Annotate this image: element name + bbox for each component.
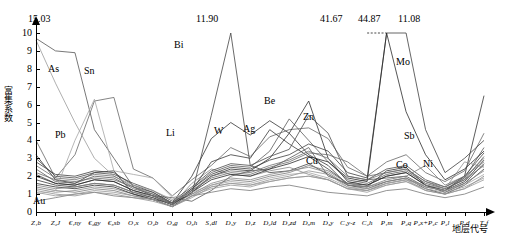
series-inline-label: Sb <box>404 131 415 141</box>
y-tick-mark <box>36 69 40 70</box>
series-line <box>36 101 484 207</box>
y-tick-mark <box>36 123 40 124</box>
x-tick-label: Z₂J <box>51 219 60 227</box>
x-tick-label: C₂h <box>362 219 373 227</box>
x-tick-mark <box>445 212 446 216</box>
y-tick-label-wrap: 3 <box>0 153 36 163</box>
series-inline-label: Sn <box>84 66 95 76</box>
x-tick-label: C₁y-z <box>340 219 355 227</box>
x-axis-line <box>36 212 488 213</box>
x-tick-label: D₂zd <box>282 219 296 227</box>
x-tick-mark <box>55 212 56 216</box>
y-tick-label: 9 <box>0 46 32 56</box>
y-tick-mark <box>36 158 40 159</box>
y-tick-label-wrap: 2 <box>0 171 36 181</box>
series-inline-label: Ag <box>243 124 255 134</box>
x-tick-label: D₃y <box>323 219 334 227</box>
x-tick-mark <box>328 212 329 216</box>
series-line <box>36 96 484 203</box>
series-inline-label: Au <box>33 196 45 206</box>
x-tick-mark <box>192 212 193 216</box>
y-tick-label-wrap: 0 <box>0 207 36 217</box>
series-inline-label: Cu <box>306 156 318 166</box>
peak-value-annotation: 11.08 <box>398 14 420 24</box>
series-line <box>36 185 484 206</box>
series-inline-label: Co <box>396 160 408 170</box>
y-tick-label: 2 <box>0 171 32 181</box>
x-axis-title: 地层代号 <box>452 222 488 235</box>
x-tick-label: O₃g <box>167 219 178 227</box>
x-tick-mark <box>484 212 485 216</box>
x-tick-mark <box>406 212 407 216</box>
x-tick-label: O₁x <box>128 219 139 227</box>
y-tick-label-wrap: 8 <box>0 64 36 74</box>
y-tick-label-wrap: 4 <box>0 135 36 145</box>
x-tick-mark <box>270 212 271 216</box>
x-tick-label: D₃m <box>302 219 315 227</box>
series-inline-label: Bi <box>174 40 183 50</box>
x-tick-mark <box>231 212 232 216</box>
series-inline-label: Ni <box>423 159 433 169</box>
series-inline-label: Be <box>264 96 275 106</box>
x-tick-label: O₂b <box>147 219 158 227</box>
x-tick-label: P₁m <box>381 219 393 227</box>
y-tick-label: 10 <box>0 28 32 38</box>
y-tick-label-wrap: 10 <box>0 28 36 38</box>
y-tick-mark <box>36 140 40 141</box>
x-tick-mark <box>289 212 290 216</box>
y-tick-label: 0 <box>0 207 32 217</box>
x-tick-mark <box>133 212 134 216</box>
plot-area <box>0 0 511 242</box>
peak-value-annotation: 44.87 <box>358 14 381 24</box>
y-axis-line <box>36 24 37 212</box>
x-tick-mark <box>172 212 173 216</box>
x-tick-label: D₁z <box>245 219 255 227</box>
peak-value-annotation: 15.03 <box>28 14 51 24</box>
y-tick-label: 3 <box>0 153 32 163</box>
x-tick-label: P₂x+P₂c <box>413 219 437 227</box>
y-axis-title: 富集系数 <box>1 86 13 122</box>
x-tick-label: P₂q <box>401 219 411 227</box>
series-inline-label: Li <box>166 128 175 138</box>
chart-svg <box>0 0 511 242</box>
x-tick-mark <box>348 212 349 216</box>
y-tick-mark <box>36 105 40 106</box>
x-tick-label: D₁y <box>225 219 236 227</box>
x-tick-label: P₂l <box>441 219 450 227</box>
x-tick-label: €₁ny <box>69 219 82 227</box>
y-tick-label-wrap: 9 <box>0 46 36 56</box>
x-tick-mark <box>367 212 368 216</box>
x-tick-label: D₂ld <box>263 219 276 227</box>
y-tick-label: 1 <box>0 189 32 199</box>
x-tick-mark <box>153 212 154 216</box>
x-tick-mark <box>211 212 212 216</box>
x-tick-label: €₃sb <box>108 219 120 227</box>
y-tick-label: 8 <box>0 64 32 74</box>
chart-root: 012345678910 Z₁bZ₂J€₁ny€₂gy€₃sbO₁xO₂bO₃g… <box>0 0 511 242</box>
peak-value-annotation: 11.90 <box>196 14 218 24</box>
x-tick-label: O₃h <box>186 219 197 227</box>
peak-value-annotation: 41.67 <box>320 14 343 24</box>
y-tick-mark <box>36 51 40 52</box>
series-inline-label: Pb <box>55 130 66 140</box>
y-tick-label: 4 <box>0 135 32 145</box>
y-tick-mark <box>36 33 40 34</box>
y-tick-label-wrap: 1 <box>0 189 36 199</box>
series-inline-label: W <box>214 126 223 136</box>
x-tick-mark <box>465 212 466 216</box>
series-inline-label: Mo <box>396 57 410 67</box>
series-line <box>36 97 484 195</box>
x-tick-mark <box>36 212 37 216</box>
x-tick-mark <box>114 212 115 216</box>
x-tick-mark <box>426 212 427 216</box>
y-tick-mark <box>36 176 40 177</box>
x-tick-label: Z₁b <box>31 219 41 227</box>
series-inline-label: As <box>48 64 59 74</box>
x-tick-label: €₂gy <box>88 219 101 227</box>
x-tick-mark <box>250 212 251 216</box>
x-tick-mark <box>75 212 76 216</box>
series-inline-label: Zn <box>303 112 314 122</box>
x-tick-mark <box>309 212 310 216</box>
x-tick-mark <box>94 212 95 216</box>
x-axis-arrow-icon <box>486 208 495 216</box>
